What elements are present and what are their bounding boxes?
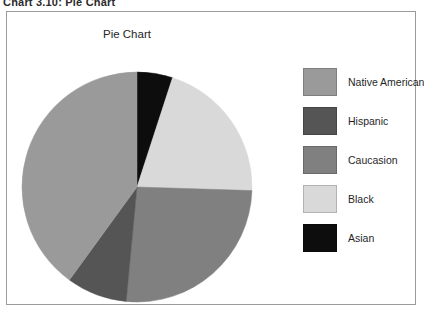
- legend-item: Black: [303, 184, 423, 214]
- legend-item: Native American: [303, 67, 423, 97]
- figure-caption: Chart 3.10: Pie Chart: [3, 0, 115, 8]
- chart-frame: Pie Chart Native AmericanHispanicCaucasi…: [6, 11, 416, 305]
- legend-item: Asian: [303, 223, 423, 253]
- legend-label: Asian: [348, 232, 374, 244]
- legend-swatch: [303, 224, 337, 252]
- legend-label: Caucasion: [348, 154, 398, 166]
- pie-chart-svg: [21, 71, 253, 303]
- pie-slices: [22, 72, 252, 302]
- legend-swatch: [303, 68, 337, 96]
- chart-legend: Native AmericanHispanicCaucasionBlackAsi…: [303, 67, 423, 262]
- legend-swatch: [303, 185, 337, 213]
- pie-slice-caucasion: [126, 187, 252, 302]
- legend-label: Hispanic: [348, 115, 388, 127]
- chart-title: Pie Chart: [103, 28, 151, 40]
- legend-label: Black: [348, 193, 374, 205]
- pie-chart: [21, 71, 253, 303]
- legend-swatch: [303, 107, 337, 135]
- legend-swatch: [303, 146, 337, 174]
- legend-label: Native American: [348, 76, 424, 88]
- legend-item: Hispanic: [303, 106, 423, 136]
- legend-item: Caucasion: [303, 145, 423, 175]
